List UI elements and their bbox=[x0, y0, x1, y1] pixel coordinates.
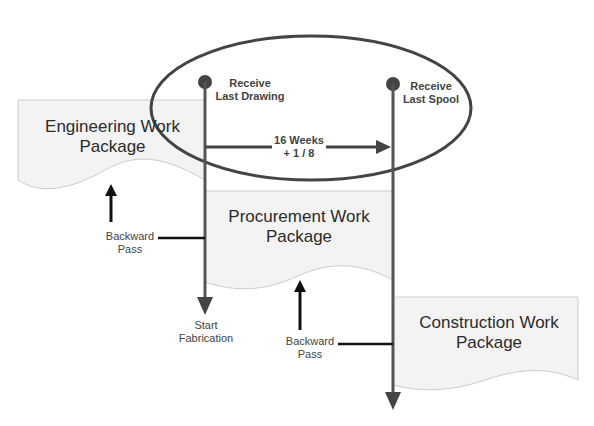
milestone-line1: Receive bbox=[210, 77, 290, 90]
start-fabrication-line2: Fabrication bbox=[175, 332, 237, 345]
procurement-package-line1: Procurement Work bbox=[205, 207, 393, 227]
backward-pass-arrowhead-1 bbox=[105, 184, 117, 196]
start-fabrication-label: Start Fabrication bbox=[175, 319, 237, 344]
milestone-label-last-spool: Receive Last Spool bbox=[398, 80, 464, 105]
backward-pass-label-2: Backward Pass bbox=[280, 335, 340, 360]
backward-pass-arrowhead-2 bbox=[294, 280, 306, 292]
milestone-line1: Receive bbox=[398, 80, 464, 93]
backward-pass-line1: Backward bbox=[280, 335, 340, 348]
duration-line1: 16 Weeks bbox=[270, 134, 328, 147]
construction-package-label: Construction Work Package bbox=[400, 313, 578, 352]
duration-label: 16 Weeks + 1 / 8 bbox=[270, 134, 328, 159]
construction-package-line2: Package bbox=[400, 333, 578, 353]
duration-arrowhead bbox=[376, 140, 391, 154]
procurement-package-line2: Package bbox=[205, 227, 393, 247]
arrowhead-construction bbox=[385, 392, 401, 410]
engineering-package-line2: Package bbox=[20, 137, 205, 157]
backward-pass-line1: Backward bbox=[100, 230, 160, 243]
backward-pass-line2: Pass bbox=[100, 243, 160, 256]
arrowhead-start-fabrication bbox=[197, 297, 213, 315]
construction-package-line1: Construction Work bbox=[400, 313, 578, 333]
procurement-package-label: Procurement Work Package bbox=[205, 207, 393, 246]
backward-pass-label-1: Backward Pass bbox=[100, 230, 160, 255]
engineering-package-line1: Engineering Work bbox=[20, 117, 205, 137]
milestone-label-last-drawing: Receive Last Drawing bbox=[210, 77, 290, 102]
milestone-line2: Last Spool bbox=[398, 93, 464, 106]
backward-pass-line2: Pass bbox=[280, 348, 340, 361]
milestone-line2: Last Drawing bbox=[210, 90, 290, 103]
start-fabrication-line1: Start bbox=[175, 319, 237, 332]
engineering-package-label: Engineering Work Package bbox=[20, 117, 205, 156]
duration-line2: + 1 / 8 bbox=[270, 147, 328, 160]
